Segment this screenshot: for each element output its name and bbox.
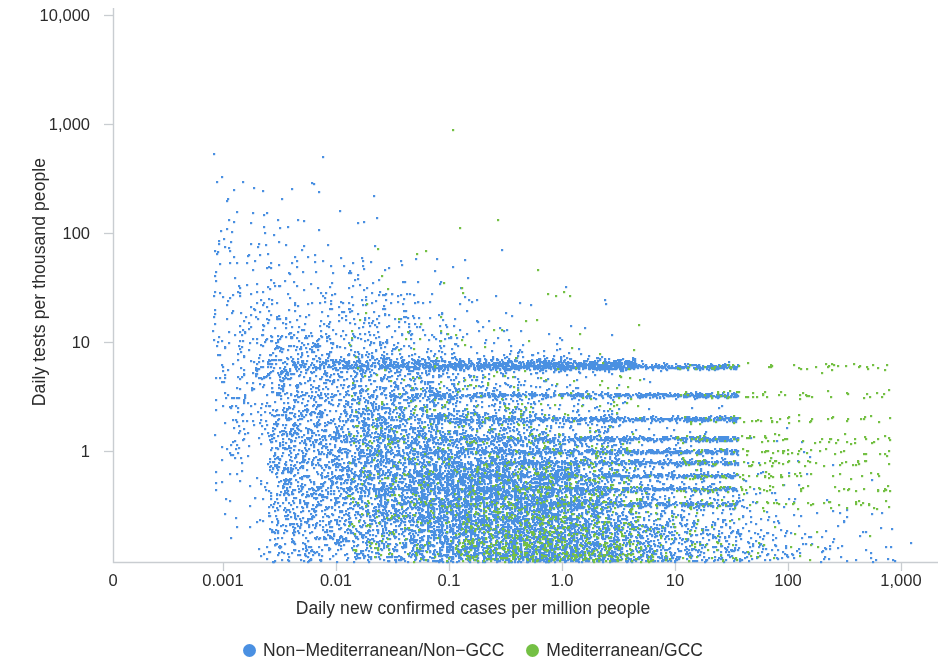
legend-marker-icon <box>526 644 539 657</box>
x-axis-title: Daily new confirmed cases per million pe… <box>0 598 946 619</box>
legend-label: Mediterranean/GCC <box>546 640 703 661</box>
scatter-plot-figure: Daily new confirmed cases per million pe… <box>0 0 946 669</box>
x-tick-label: 0 <box>108 571 117 590</box>
x-tick-label: 0.1 <box>438 571 461 590</box>
scatter-plot-canvas <box>0 0 946 669</box>
y-tick-label: 1,000 <box>0 115 90 134</box>
x-tick-label: 1.0 <box>551 571 574 590</box>
legend-label: Non−Mediterranean/Non−GCC <box>263 640 504 661</box>
chart-legend: Non−Mediterranean/Non−GCCMediterranean/G… <box>0 640 946 661</box>
legend-entry[interactable]: Non−Mediterranean/Non−GCC <box>243 640 504 661</box>
y-tick-label: 1 <box>0 442 90 461</box>
y-tick-label: 100 <box>0 224 90 243</box>
y-axis-title: Daily tests per thousand people <box>26 2 52 562</box>
y-tick-label: 10 <box>0 333 90 352</box>
x-tick-label: 100 <box>774 571 802 590</box>
legend-marker-icon <box>243 644 256 657</box>
x-tick-label: 0.001 <box>202 571 243 590</box>
x-tick-label: 1,000 <box>880 571 921 590</box>
legend-entry[interactable]: Mediterranean/GCC <box>526 640 703 661</box>
x-tick-label: 0.01 <box>320 571 352 590</box>
x-tick-label: 10 <box>666 571 684 590</box>
y-tick-label: 10,000 <box>0 6 90 25</box>
